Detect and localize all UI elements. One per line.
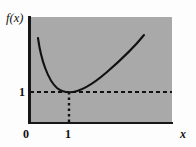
x-axis-label: x [180, 128, 186, 140]
x-tick-label-1: 1 [65, 128, 71, 140]
function-graph-figure: f(x) x 0 1 1 [0, 0, 196, 147]
curve-layer [0, 0, 196, 147]
y-axis-label: f(x) [6, 12, 23, 25]
function-curve [38, 35, 144, 92]
x-tick-label-0: 0 [23, 128, 29, 140]
y-tick-label-1: 1 [19, 86, 25, 98]
